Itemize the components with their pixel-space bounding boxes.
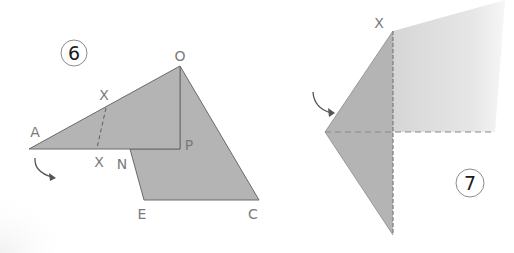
unfolded-panel	[393, 0, 505, 132]
step-7: X 7	[313, 0, 505, 235]
step-7-number: 7	[464, 172, 476, 194]
label-p: P	[185, 137, 193, 153]
upper-triangle-flap	[29, 66, 180, 149]
label-x-top: X	[99, 87, 109, 103]
label-o: O	[174, 48, 185, 64]
fold-arrow-icon	[313, 92, 335, 117]
label-a: A	[30, 124, 40, 140]
label-n: N	[117, 156, 127, 172]
label-c: C	[248, 206, 258, 222]
label-e: E	[138, 206, 147, 222]
label-x-bottom: X	[94, 154, 104, 170]
folded-kite	[325, 31, 393, 235]
step-6-number: 6	[68, 42, 80, 64]
step-7-badge: 7	[456, 169, 484, 197]
origami-diagram: 6 O A X X N P E C X	[0, 0, 514, 253]
step-6-badge: 6	[61, 40, 87, 66]
label-x: X	[374, 15, 384, 31]
